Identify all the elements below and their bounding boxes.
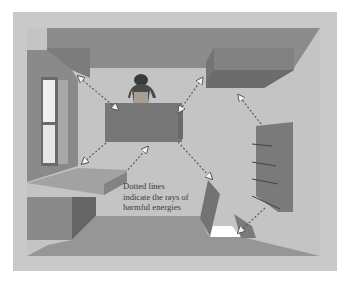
diagram-caption: Dotted lines indicate the rays of harmfu…: [123, 181, 213, 213]
desk: [105, 103, 182, 142]
right-bookshelf: [252, 122, 293, 212]
window-pane-top: [43, 80, 55, 122]
room-floorplan: [0, 0, 346, 284]
window-sill: [58, 80, 68, 164]
desk-edge: [178, 106, 183, 139]
room-illustration: Dotted lines indicate the rays of harmfu…: [0, 0, 346, 284]
bottom-left-cabinet: [27, 197, 72, 240]
caption-line-2: indicate the rays of: [123, 192, 213, 203]
caption-line-1: Dotted lines: [123, 181, 213, 192]
caption-line-3: harmful energies: [123, 202, 213, 213]
window-pane-bottom: [43, 125, 55, 163]
